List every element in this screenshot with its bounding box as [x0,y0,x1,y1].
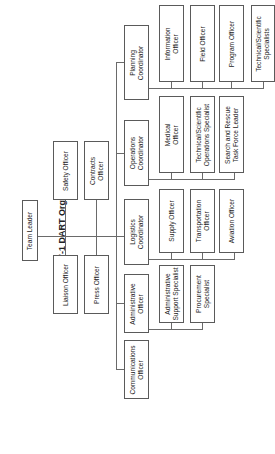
connector-operations-bus [149,179,235,180]
node-logistics-coordinator: Logistics Coordinator [124,199,149,265]
connector-admin-bus [149,329,203,330]
connector-logistics-1 [171,253,172,259]
connector-staff-2 [96,200,97,255]
node-admin-support-specialist: Administrative Support Specialist [159,265,184,323]
connector-operations [116,153,124,154]
connector-main-spine [116,62,117,370]
connector-administrative [116,303,124,304]
node-label: Technical/Scientific Operations Speciali… [195,103,210,165]
node-field-officer: Field Officer [190,5,215,82]
node-medical-officer: Medical Officer [159,96,184,173]
node-tech-sci-ops-specialist: Technical/Scientific Operations Speciali… [190,96,215,173]
connector-planning-3 [231,82,232,88]
node-label: Contracts Officer [89,156,104,184]
node-label: Administrative Officer [129,283,144,324]
connector-operations-1 [171,173,172,179]
connector-operations-2 [202,173,203,179]
node-label: Medical Officer [164,123,179,146]
node-label: Information Officer [164,27,179,60]
node-press-officer: Press Officer [84,255,109,314]
node-label: Technical/Scientific Specialists [255,16,270,72]
node-label: Aviation Officer [228,199,236,243]
node-planning-coordinator: Planning Coordinator [124,25,149,100]
node-label: Planning Coordinator [129,45,144,79]
connector-planning-2 [202,82,203,88]
node-transportation-officer: Transportation Officer [190,189,215,253]
node-sar-task-force-leader: Search and Rescue Task Force Leader [219,96,244,173]
node-procurement-specialist: Procurement Specialist [190,265,215,323]
node-label: Logistics Coordinator [129,215,144,249]
node-operations-coordinator: Operations Coordinator [124,120,149,186]
connector-staff-1 [65,200,66,255]
node-label: Team Leader [26,211,34,250]
node-label: Field Officer [199,26,207,61]
node-label: Supply Officer [168,200,176,241]
connector-planning [116,62,124,63]
connector-logistics-2 [202,253,203,259]
node-label: Program Officer [228,20,236,66]
connector-logistics-3 [234,253,235,259]
connector-communications [116,369,124,370]
node-communications-officer: Communications Officer [124,340,149,399]
node-label: Press Officer [93,266,101,304]
node-label: Liaison Officer [62,263,70,305]
node-contracts-officer: Contracts Officer [84,141,109,200]
connector-logistics-bus [149,259,235,260]
node-safety-officer: Safety Officer [53,141,78,200]
node-aviation-officer: Aviation Officer [219,189,244,253]
node-information-officer: Information Officer [159,5,184,82]
node-label: Administrative Support Specialist [164,267,179,320]
node-liaison-officer: Liaison Officer [53,255,78,314]
node-tech-sci-specialists: Technical/Scientific Specialists [251,5,275,82]
node-team-leader: Team Leader [22,200,38,261]
connector-planning-4 [263,82,264,88]
node-label: Safety Officer [62,151,70,191]
connector-root-trunk [38,236,117,237]
connector-admin-1 [171,323,172,329]
node-program-officer: Program Officer [219,5,244,82]
node-label: Procurement Specialist [195,275,210,313]
connector-planning-1 [171,82,172,88]
connector-operations-3 [234,173,235,179]
node-supply-officer: Supply Officer [159,189,184,253]
connector-logistics [116,236,124,237]
connector-planning-bus [149,88,264,89]
connector-admin-2 [202,323,203,329]
node-label: Search and Rescue Task Force Leader [224,106,239,164]
node-administrative-officer: Administrative Officer [124,274,149,333]
node-label: Communications Officer [129,345,144,394]
node-label: Transportation Officer [195,200,210,242]
node-label: Operations Coordinator [129,136,144,170]
